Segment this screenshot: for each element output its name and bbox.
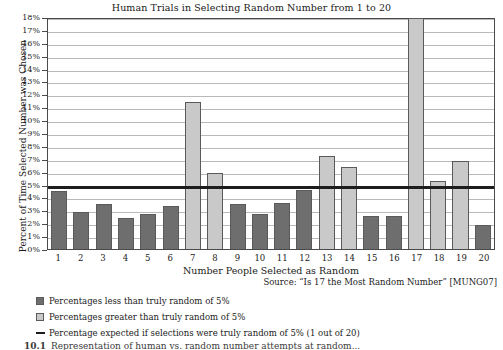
legend-line-icon (36, 332, 45, 334)
y-tick-label: 11% (22, 104, 40, 112)
bar-slot (472, 19, 494, 249)
y-tick-label: 13% (22, 78, 40, 86)
bar-slot (249, 19, 271, 249)
y-tick-label: 15% (22, 53, 40, 61)
y-tick-label: 18% (22, 14, 40, 22)
source-note: Source: “Is 17 the Most Random Number” [… (263, 277, 497, 287)
figure-caption-number: 10.1 (24, 341, 46, 350)
bar[interactable] (96, 204, 112, 249)
bar-slot (226, 19, 248, 249)
bar[interactable] (363, 216, 379, 249)
bar[interactable] (73, 212, 89, 249)
figure-caption-text: Representation of human vs. random numbe… (51, 341, 360, 350)
y-tick-label: 7% (27, 156, 40, 164)
bar-slot (360, 19, 382, 249)
y-tick-label: 10% (22, 117, 40, 125)
plot-area (47, 18, 495, 250)
chart-figure: Human Trials in Selecting Random Number … (0, 0, 503, 350)
y-tick-label: 2% (27, 220, 40, 228)
bar[interactable] (452, 161, 468, 249)
bar-series (48, 19, 494, 249)
y-tick-label: 1% (27, 233, 40, 241)
bar-slot (427, 19, 449, 249)
bar[interactable] (230, 204, 246, 249)
bar[interactable] (207, 173, 223, 249)
bar[interactable] (274, 203, 290, 249)
bar[interactable] (140, 214, 156, 249)
bar-slot (204, 19, 226, 249)
bar-slot (293, 19, 315, 249)
bar[interactable] (386, 216, 402, 249)
bar[interactable] (252, 214, 268, 249)
y-tick-label: 5% (27, 182, 40, 190)
bar-slot (382, 19, 404, 249)
bar[interactable] (296, 190, 312, 249)
bar[interactable] (475, 225, 491, 249)
y-tick-label: 17% (22, 27, 40, 35)
y-tick-label: 8% (27, 143, 40, 151)
legend-item: Percentages less than truly random of 5% (36, 294, 476, 308)
bar-slot (137, 19, 159, 249)
y-axis: Percent of Time Selected Number was Chos… (0, 18, 47, 250)
bar-slot (48, 19, 70, 249)
y-tick-label: 4% (27, 194, 40, 202)
y-tick-label: 6% (27, 169, 40, 177)
y-tick-label: 16% (22, 40, 40, 48)
chart-legend: Percentages less than truly random of 5%… (36, 294, 476, 342)
bar-slot (316, 19, 338, 249)
bar-slot (405, 19, 427, 249)
y-tick-label: 0% (27, 246, 40, 254)
y-tick-label: 12% (22, 91, 40, 99)
bar[interactable] (408, 18, 424, 249)
bar[interactable] (185, 102, 201, 249)
legend-label: Percentages greater than truly random of… (49, 312, 245, 322)
y-tick-label: 3% (27, 207, 40, 215)
y-tick-label: 9% (27, 130, 40, 138)
legend-swatch-icon (36, 297, 44, 305)
bar[interactable] (341, 167, 357, 249)
bar-slot (449, 19, 471, 249)
bar-slot (159, 19, 181, 249)
bar-slot (338, 19, 360, 249)
bar-slot (182, 19, 204, 249)
bar[interactable] (51, 191, 67, 249)
bar[interactable] (163, 206, 179, 249)
bar-slot (93, 19, 115, 249)
x-axis-title: Number People Selected as Random (47, 265, 495, 276)
bar[interactable] (319, 156, 335, 249)
bar-slot (70, 19, 92, 249)
legend-item: Percentage expected if selections were t… (36, 326, 476, 340)
legend-swatch-icon (36, 313, 44, 321)
bar[interactable] (430, 181, 446, 249)
bar[interactable] (118, 218, 134, 249)
y-tick-label: 14% (22, 66, 40, 74)
bar-slot (115, 19, 137, 249)
legend-item: Percentages greater than truly random of… (36, 310, 476, 324)
chart-title: Human Trials in Selecting Random Number … (0, 2, 503, 13)
bar-slot (271, 19, 293, 249)
figure-caption: 10.1Representation of human vs. random n… (24, 341, 494, 350)
legend-label: Percentage expected if selections were t… (49, 328, 360, 338)
reference-line (48, 186, 494, 189)
legend-label: Percentages less than truly random of 5% (49, 296, 230, 306)
